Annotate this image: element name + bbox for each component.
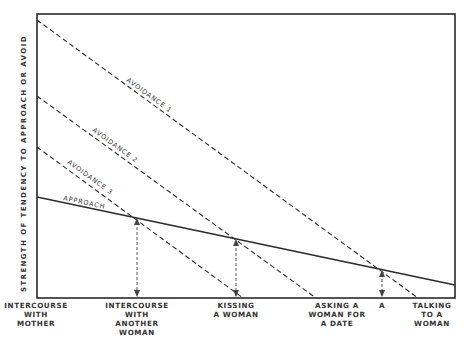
- tick-intercourse-with-another-woman: INTERCOURSE WITH ANOTHER WOMAN: [102, 301, 172, 337]
- drop-arrow-1: [134, 218, 140, 297]
- plot-frame: [37, 14, 455, 298]
- y-axis-label: STRENGTH OF TENDENCY TO APPROACH OR AVOI…: [20, 35, 28, 292]
- drop-arrow-2: [233, 239, 239, 297]
- tick-asking-a-woman-for-a-date: ASKING A WOMAN FOR A DATE: [306, 301, 368, 328]
- avoidance-1-label: AVOIDANCE 1: [125, 76, 174, 114]
- avoidance-3-label: AVOIDANCE 3: [66, 158, 115, 196]
- tick-a: A: [374, 301, 390, 310]
- avoidance-2-label: AVOIDANCE 2: [91, 126, 140, 164]
- avoidance-1-line: [37, 20, 418, 298]
- tick-kissing-a-woman: KISSING A WOMAN: [208, 301, 264, 319]
- approach-line: [37, 197, 455, 285]
- drop-arrow-3: [379, 270, 385, 297]
- approach-label: APPROACH: [63, 194, 106, 211]
- tick-talking-to-a-woman: TALKING TO A WOMAN: [410, 301, 454, 328]
- tick-intercourse-with-mother: INTERCOURSE WITH MOTHER: [4, 301, 68, 328]
